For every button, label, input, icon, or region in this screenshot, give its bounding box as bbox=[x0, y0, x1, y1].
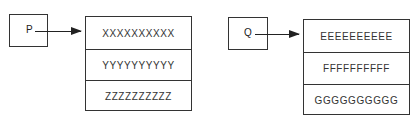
record-row: EEEEEEEEEE bbox=[304, 20, 409, 52]
record-table-q: EEEEEEEEEE FFFFFFFFFF GGGGGGGGGG bbox=[303, 19, 410, 115]
pointer-label-q: Q bbox=[244, 28, 252, 38]
record-row: YYYYYYYYYY bbox=[86, 49, 191, 80]
arrow-icon bbox=[35, 31, 81, 32]
record-table-p: XXXXXXXXXX YYYYYYYYYY ZZZZZZZZZZ bbox=[85, 16, 192, 111]
record-row: FFFFFFFFFF bbox=[304, 52, 409, 84]
record-row: GGGGGGGGGG bbox=[304, 84, 409, 115]
record-row: ZZZZZZZZZZ bbox=[86, 80, 191, 111]
arrow-icon bbox=[255, 34, 299, 35]
record-row: XXXXXXXXXX bbox=[86, 17, 191, 49]
pointer-label-p: P bbox=[26, 25, 33, 35]
